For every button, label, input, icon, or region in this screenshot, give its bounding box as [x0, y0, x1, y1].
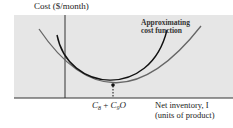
x-axis-label: Net inventory, I (units of product) — [155, 100, 215, 120]
approximating-curve-annotation: Approximating cost function — [141, 19, 190, 35]
y-axis-label: Cost ($/month) — [34, 1, 89, 11]
approx-label-line2: cost function — [141, 27, 190, 35]
x-axis-label-line2: (units of product) — [155, 110, 215, 120]
x-axis-label-line1: Net inventory, I — [155, 100, 215, 110]
min-o: O — [120, 100, 127, 110]
minimum-cost-label: C8 + C9O — [92, 100, 126, 111]
min-plus: + — [101, 100, 111, 110]
minimum-point-marker — [111, 83, 115, 87]
